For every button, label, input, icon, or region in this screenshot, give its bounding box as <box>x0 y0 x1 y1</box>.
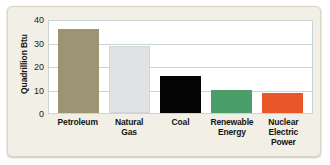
x-axis-label-line: Nuclear <box>259 117 308 127</box>
plot-area <box>48 20 313 114</box>
bar-petroleum[interactable] <box>58 29 99 113</box>
x-axis-label-line: Coal <box>156 117 205 127</box>
x-axis-label-line: Gas <box>104 127 153 137</box>
x-axis-label-coal: Coal <box>155 117 206 147</box>
bar-slot <box>206 21 257 113</box>
bar-nuclear-electric-power[interactable] <box>262 93 303 113</box>
x-axis-label-line: Petroleum <box>53 117 102 127</box>
x-axis-label-line: Power <box>259 137 308 147</box>
x-axis-category-labels: PetroleumNaturalGasCoalRenewableEnergyNu… <box>48 117 313 147</box>
y-axis-tick-20: 20 <box>24 63 44 72</box>
x-axis-label-petroleum: Petroleum <box>52 117 103 147</box>
y-axis-tick-40: 40 <box>24 16 44 25</box>
y-axis-tick-30: 30 <box>24 39 44 48</box>
bar-coal[interactable] <box>160 76 201 113</box>
y-axis-tick-10: 10 <box>24 86 44 95</box>
x-axis-label-line: Energy <box>207 127 256 137</box>
x-axis-label-line: Electric <box>259 127 308 137</box>
bar-slot <box>155 21 206 113</box>
y-axis-tick-0: 0 <box>24 110 44 119</box>
bars-group <box>49 21 312 113</box>
chart-card: Quadrillion Btu 010203040 PetroleumNatur… <box>7 6 321 157</box>
x-axis-label-line: Natural <box>104 117 153 127</box>
bar-slot <box>257 21 308 113</box>
x-axis-label-renewable-energy: RenewableEnergy <box>206 117 257 147</box>
bar-slot <box>104 21 155 113</box>
x-axis-label-natural-gas: NaturalGas <box>103 117 154 147</box>
bar-slot <box>53 21 104 113</box>
x-axis-label-line: Renewable <box>207 117 256 127</box>
x-axis-label-nuclear-electric-power: NuclearElectricPower <box>258 117 309 147</box>
y-axis-tick-labels: 010203040 <box>24 20 44 114</box>
bar-natural-gas[interactable] <box>109 46 150 113</box>
bar-renewable-energy[interactable] <box>211 90 252 113</box>
